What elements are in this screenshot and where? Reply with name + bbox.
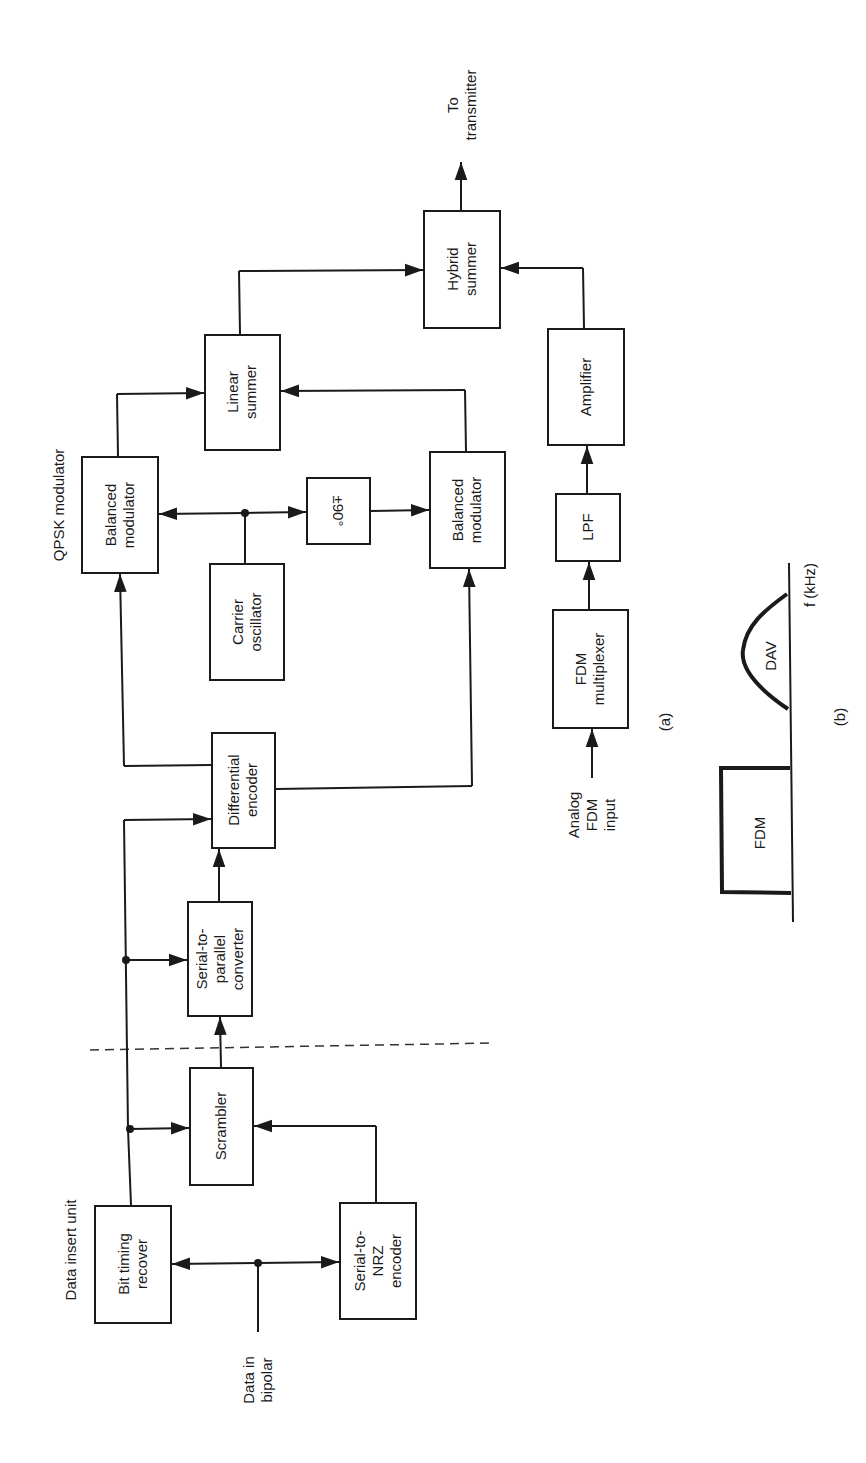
block-diagram: Data insert unit QPSK modulator Bit timi… <box>0 0 866 1463</box>
svg-text:Carrier: Carrier <box>229 599 246 645</box>
svg-text:FDM: FDM <box>572 653 589 686</box>
section-title-qpsk-modulator: QPSK modulator <box>50 449 67 562</box>
svg-text:Hybrid: Hybrid <box>444 247 461 290</box>
svg-text:±90°: ±90° <box>330 496 347 527</box>
svg-text:LPF: LPF <box>579 513 596 541</box>
svg-text:Analog: Analog <box>565 792 582 839</box>
caption-part-a: (a) <box>656 713 673 731</box>
block-linear-summer: Linear summer <box>205 335 280 450</box>
svg-text:Differential: Differential <box>225 754 242 825</box>
svg-text:bipolar: bipolar <box>258 1357 275 1402</box>
svg-text:Serial-to-: Serial-to- <box>351 1231 368 1292</box>
svg-text:FDM: FDM <box>583 799 600 832</box>
svg-text:To: To <box>444 97 461 113</box>
svg-text:oscillator: oscillator <box>247 592 264 651</box>
caption-part-b: (b) <box>831 708 848 726</box>
block-carrier-oscillator: Carrier oscillator <box>210 564 284 680</box>
frequency-axis <box>789 563 793 922</box>
svg-text:encoder: encoder <box>387 1234 404 1288</box>
svg-text:encoder: encoder <box>243 763 260 817</box>
fdm-label: FDM <box>751 817 768 850</box>
svg-text:summer: summer <box>242 365 259 419</box>
svg-text:Scrambler: Scrambler <box>212 1092 229 1160</box>
axis-label: f (kHz) <box>801 563 818 607</box>
block-scrambler: Scrambler <box>190 1068 253 1185</box>
block-phase-shift-90: ±90° <box>307 478 370 544</box>
spectrum-plot: DAV FDM f (kHz) <box>721 563 818 922</box>
svg-text:Balanced: Balanced <box>102 484 119 547</box>
block-amplifier: Amplifier <box>548 329 624 445</box>
section-title-data-insert-unit: Data insert unit <box>62 1199 79 1301</box>
svg-text:modulator: modulator <box>120 482 137 549</box>
connections <box>117 162 592 1332</box>
svg-text:Amplifier: Amplifier <box>577 358 594 416</box>
svg-text:recover: recover <box>133 1239 150 1289</box>
block-balanced-modulator-bottom: Balanced modulator <box>430 452 505 568</box>
block-bit-timing-recover: Bit timing recover <box>95 1206 171 1323</box>
block-lpf: LPF <box>556 494 620 561</box>
svg-text:NRZ: NRZ <box>369 1246 386 1277</box>
block-differential-encoder: Differential encoder <box>212 733 275 848</box>
block-serial-to-nrz-encoder: Serial-to- NRZ encoder <box>340 1203 416 1319</box>
block-fdm-multiplexer: FDM multiplexer <box>553 610 628 728</box>
label-data-in-bipolar: Data in bipolar <box>240 1356 275 1404</box>
block-balanced-modulator-top: Balanced modulator <box>82 457 158 573</box>
svg-text:Bit timing: Bit timing <box>115 1233 132 1295</box>
dav-label: DAV <box>762 641 779 671</box>
svg-text:converter: converter <box>229 928 246 991</box>
svg-text:transmitter: transmitter <box>462 70 479 141</box>
svg-text:summer: summer <box>462 242 479 296</box>
svg-text:parallel: parallel <box>211 935 228 983</box>
label-analog-fdm-input: Analog FDM input <box>565 792 618 839</box>
svg-text:Serial-to-: Serial-to- <box>193 929 210 990</box>
svg-text:input: input <box>601 798 618 831</box>
block-hybrid-summer: Hybrid summer <box>424 211 500 328</box>
svg-text:modulator: modulator <box>467 477 484 544</box>
block-serial-to-parallel-converter: Serial-to- parallel converter <box>188 902 252 1016</box>
svg-text:Linear: Linear <box>224 371 241 413</box>
svg-text:Balanced: Balanced <box>449 479 466 542</box>
label-to-transmitter: To transmitter <box>444 70 479 141</box>
section-divider <box>90 1043 495 1050</box>
svg-text:multiplexer: multiplexer <box>590 633 607 706</box>
svg-text:Data in: Data in <box>240 1356 257 1404</box>
